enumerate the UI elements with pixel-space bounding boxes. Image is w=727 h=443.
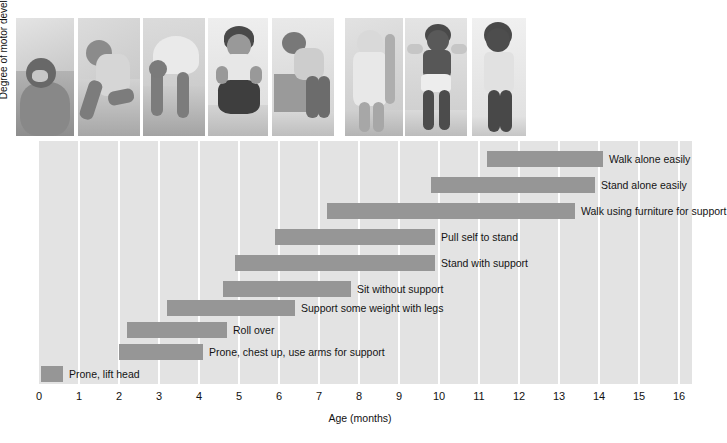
photo-walk-alone xyxy=(472,18,526,136)
x-tick-16: 16 xyxy=(673,390,685,402)
photo-stand-with-support xyxy=(345,18,403,136)
bar-label-9: Prone, lift head xyxy=(69,366,140,382)
x-tick-3: 3 xyxy=(156,390,162,402)
bar-milestone-1 xyxy=(431,177,595,193)
bar-milestone-7 xyxy=(127,322,227,338)
x-tick-12: 12 xyxy=(513,390,525,402)
bar-milestone-4 xyxy=(235,255,435,271)
x-tick-0: 0 xyxy=(36,390,42,402)
x-tick-14: 14 xyxy=(593,390,605,402)
photo-strip xyxy=(0,0,720,140)
bar-milestone-5 xyxy=(223,281,351,297)
bar-label-5: Sit without support xyxy=(357,281,443,297)
bar-milestone-2 xyxy=(327,203,575,219)
gridline-month-1 xyxy=(78,141,80,384)
x-tick-5: 5 xyxy=(236,390,242,402)
x-tick-2: 2 xyxy=(116,390,122,402)
bar-label-6: Support some weight with legs xyxy=(301,300,443,316)
x-tick-10: 10 xyxy=(433,390,445,402)
x-tick-8: 8 xyxy=(356,390,362,402)
y-axis-label: Degree of motor development xyxy=(0,0,9,148)
x-tick-11: 11 xyxy=(473,390,484,402)
x-tick-7: 7 xyxy=(316,390,322,402)
photo-roll-over xyxy=(78,18,140,136)
bar-label-2: Walk using furniture for support xyxy=(581,203,727,219)
photo-prone-chest-up xyxy=(143,18,205,136)
bar-label-1: Stand alone easily xyxy=(601,177,687,193)
bar-milestone-6 xyxy=(167,300,295,316)
x-axis-line xyxy=(0,384,720,385)
bar-milestone-8 xyxy=(119,344,203,360)
bar-milestone-0 xyxy=(487,151,603,167)
x-tick-9: 9 xyxy=(396,390,402,402)
bar-label-4: Stand with support xyxy=(441,255,528,271)
bar-label-7: Roll over xyxy=(233,322,274,338)
bar-label-0: Walk alone easily xyxy=(609,151,690,167)
x-axis-ticks: 012345678910111213141516 xyxy=(0,390,720,406)
gridline-month-14 xyxy=(598,141,600,384)
x-tick-6: 6 xyxy=(276,390,282,402)
bar-label-3: Pull self to stand xyxy=(441,229,518,245)
x-tick-13: 13 xyxy=(553,390,565,402)
x-tick-1: 1 xyxy=(76,390,82,402)
photo-walk-with-help xyxy=(405,18,467,136)
photo-sit-without-support xyxy=(208,18,268,136)
photo-pull-self-to-stand xyxy=(272,18,334,136)
bar-milestone-3 xyxy=(275,229,435,245)
x-axis-label: Age (months) xyxy=(0,412,720,424)
photo-prone-lift-head xyxy=(16,18,74,136)
x-tick-15: 15 xyxy=(633,390,645,402)
bar-milestone-9 xyxy=(41,366,63,382)
bar-label-8: Prone, chest up, use arms for support xyxy=(209,344,385,360)
x-tick-4: 4 xyxy=(196,390,202,402)
